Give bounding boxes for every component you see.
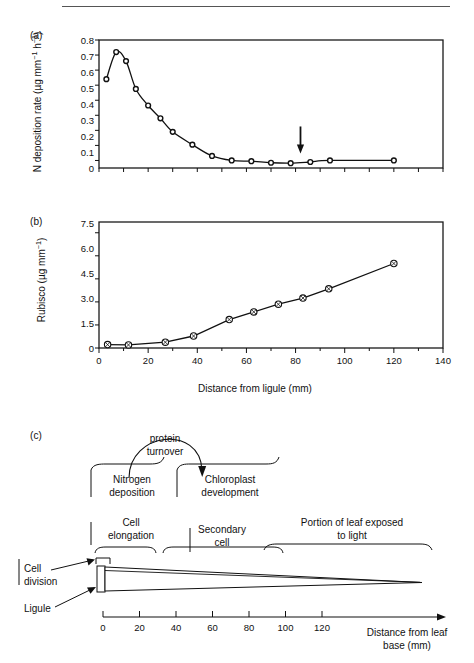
panel-c-axis-tick-100: 100: [271, 622, 301, 633]
cell-division-label: Cell division: [24, 562, 88, 588]
panel-c-axis-tick-0: 0: [88, 622, 118, 633]
panel-c-axis-tick-20: 20: [125, 622, 155, 633]
ligule-sheath-box: [97, 566, 105, 592]
panel-c-axis-title-line-2: base (mm): [345, 639, 469, 652]
panel-c-axis-title-line-1: Distance from leaf: [345, 626, 469, 639]
cell-elongation-line-1: Cell: [92, 516, 170, 529]
chloroplast-development-line-2: development: [183, 486, 277, 499]
portion-of-leaf-bracket: [264, 544, 432, 550]
secondary-cell-line-1: Secondary: [183, 523, 261, 536]
panel-c-axis-tick-40: 40: [161, 622, 191, 633]
leaf-blade-outline: [105, 567, 422, 591]
secondary-cell-line-2: cell: [183, 536, 261, 549]
panel-c-axis-title: Distance from leaf base (mm): [345, 626, 469, 652]
ligule-label: Ligule: [24, 602, 80, 615]
cell-division-line-1: Cell: [24, 562, 88, 575]
panel-c-axis-tick-120: 120: [307, 622, 337, 633]
cell-elongation-label: Cell elongation: [92, 516, 170, 542]
panel-c-axis-arrow-head: [437, 613, 446, 620]
protein-turnover-line-2: turnover: [125, 445, 205, 458]
cell-division-bracket: [96, 558, 110, 564]
panel-c-axis-tick-80: 80: [234, 622, 264, 633]
secondary-cell-label: Secondary cell: [183, 523, 261, 549]
cell-division-line-2: division: [24, 575, 88, 588]
nitrogen-deposition-line-1: Nitrogen: [94, 473, 170, 486]
protein-turnover-label: protein turnover: [125, 432, 205, 458]
chloroplast-development-label: Chloroplast development: [183, 473, 277, 499]
chloroplast-development-line-1: Chloroplast: [183, 473, 277, 486]
cell-elongation-line-2: elongation: [92, 529, 170, 542]
portion-of-leaf-line-2: to light: [272, 529, 432, 542]
protein-turnover-line-1: protein: [125, 432, 205, 445]
nitrogen-deposition-label: Nitrogen deposition: [94, 473, 170, 499]
panel-c-axis-tick-60: 60: [198, 622, 228, 633]
figure-root: (a) N deposition rate (µg mm−1 h−1) 0.8 …: [0, 0, 474, 663]
nitrogen-deposition-line-2: deposition: [94, 486, 170, 499]
portion-of-leaf-line-1: Portion of leaf exposed: [272, 516, 432, 529]
portion-of-leaf-label: Portion of leaf exposed to light: [272, 516, 432, 542]
